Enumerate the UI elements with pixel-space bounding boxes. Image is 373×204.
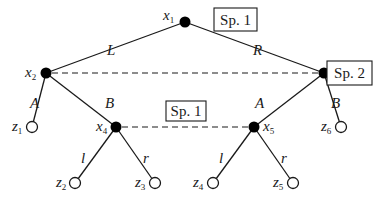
decision-node-x2 [41,68,52,79]
player-label-right-text: Sp. 2 [334,65,365,81]
action-label-B-left: B [105,95,114,111]
terminal-node-z4 [208,178,219,189]
node-label-z1: z1 [11,118,22,136]
player-label-right: Sp. 2 [327,61,372,85]
svg-text:x4: x4 [95,118,108,136]
player-label-top: Sp. 1 [214,8,257,31]
svg-text:z2: z2 [55,174,66,192]
node-labels: x1 x2 x3 x4 x5 z1 z2 z3 z4 z5 z6 [11,7,345,192]
terminal-node-z5 [288,178,299,189]
terminal-node-z3 [150,178,161,189]
node-label-z2: z2 [55,174,66,192]
svg-text:x1: x1 [162,7,174,25]
game-tree-diagram: L R A B A B l r l r x1 x2 x3 [0,0,373,204]
action-label-A-right: A [254,95,265,111]
svg-text:z3: z3 [134,174,146,192]
node-label-x2: x2 [24,64,36,82]
terminal-node-z6 [336,122,347,133]
action-label-l-left: l [81,150,85,166]
action-label-A-left: A [29,95,40,111]
player-label-middle-text: Sp. 1 [171,103,202,119]
node-label-z3: z3 [134,174,146,192]
terminal-nodes [27,122,347,189]
node-label-x4: x4 [95,118,108,136]
decision-node-x4 [111,122,122,133]
node-label-x1: x1 [162,7,174,25]
svg-text:z5: z5 [272,174,284,192]
node-label-z5: z5 [272,174,284,192]
terminal-node-z2 [70,178,81,189]
edge-x1-x2 [46,22,185,73]
svg-text:z1: z1 [11,118,22,136]
terminal-node-z1 [27,122,38,133]
action-label-r-right: r [281,150,287,166]
svg-text:z4: z4 [192,174,204,192]
decision-node-x5 [249,122,260,133]
svg-text:x5: x5 [262,118,275,136]
action-label-B-right: B [331,95,340,111]
player-label-top-text: Sp. 1 [220,12,251,28]
node-label-x5: x5 [262,118,275,136]
svg-text:z6: z6 [320,118,332,136]
node-label-z6: z6 [320,118,332,136]
player-label-middle: Sp. 1 [166,101,206,121]
action-label-R: R [252,42,262,58]
node-label-z4: z4 [192,174,204,192]
action-label-L: L [106,42,115,58]
decision-node-x1 [180,17,191,28]
action-label-r-left: r [143,150,149,166]
svg-text:x2: x2 [24,64,36,82]
action-label-l-right: l [219,150,223,166]
